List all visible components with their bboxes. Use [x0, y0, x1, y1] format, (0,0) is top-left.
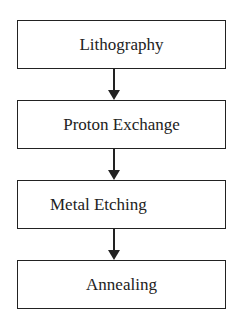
arrow-line-3 — [113, 229, 115, 251]
step-lithography: Lithography — [17, 20, 226, 69]
step-metal-etching: Metal Etching — [17, 180, 226, 229]
step-proton-exchange: Proton Exchange — [17, 100, 226, 149]
arrow-line-1 — [113, 69, 115, 92]
arrow-head-icon — [108, 170, 120, 180]
step-annealing: Annealing — [17, 260, 226, 309]
arrow-line-2 — [113, 149, 115, 171]
arrow-head-icon — [108, 250, 120, 260]
arrow-head-icon — [108, 90, 120, 100]
